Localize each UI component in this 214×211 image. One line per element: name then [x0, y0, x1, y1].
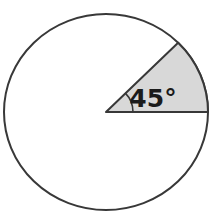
figure-canvas: 45° — [0, 0, 214, 211]
circle-sector-figure: 45° — [0, 0, 214, 211]
angle-label: 45° — [129, 84, 176, 113]
